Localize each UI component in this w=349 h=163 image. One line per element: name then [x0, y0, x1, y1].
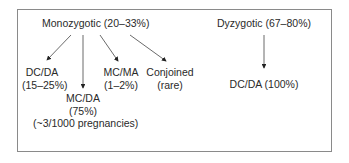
node-dz-dcda: DC/DA (100%): [219, 78, 309, 91]
dizygotic-title: Dyzygotic (67–80%): [214, 17, 314, 30]
node-mcda-pct: (75%): [33, 105, 133, 118]
arrow-to-conjoined: [130, 35, 166, 61]
node-dcda: DC/DA (15–25%): [22, 66, 62, 91]
node-mcma: MC/MA (1–2%): [101, 66, 141, 91]
node-mcda-label: MC/DA: [33, 92, 133, 105]
node-mcda-incidence: (~3/1000 pregnancies): [33, 117, 133, 130]
arrow-to-mcma: [100, 35, 118, 61]
node-mcma-label: MC/MA: [101, 66, 141, 79]
monozygotic-title: Monozygotic (20–33%): [42, 17, 149, 30]
node-conjoined: Conjoined (rare): [145, 66, 195, 91]
node-mcma-pct: (1–2%): [101, 79, 141, 92]
arrow-to-dcda: [47, 35, 71, 60]
node-dcda-label: DC/DA: [22, 66, 62, 79]
node-mcda: MC/DA (75%) (~3/1000 pregnancies): [33, 92, 133, 130]
node-conjoined-label: Conjoined: [145, 66, 195, 79]
node-conjoined-pct: (rare): [145, 79, 195, 92]
node-dcda-pct: (15–25%): [22, 79, 62, 92]
